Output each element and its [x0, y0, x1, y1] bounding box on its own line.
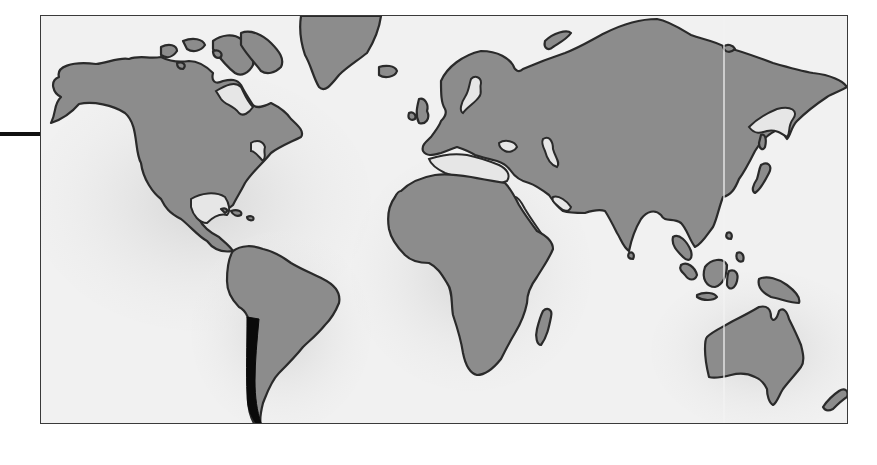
arctic-island — [183, 39, 205, 51]
philippines — [736, 252, 743, 261]
leader-line — [0, 132, 41, 136]
arctic-island — [177, 62, 185, 69]
world-map-frame — [40, 15, 848, 424]
taiwan — [726, 232, 732, 239]
sulawesi — [727, 270, 738, 288]
arctic-island — [161, 45, 177, 57]
great-britain — [417, 99, 429, 124]
wrangel-island — [723, 45, 735, 52]
iceland — [379, 66, 397, 77]
ireland — [408, 112, 415, 119]
lesser-sunda — [697, 293, 717, 300]
arctic-island — [213, 50, 222, 57]
hispaniola — [247, 216, 254, 220]
world-map — [41, 16, 848, 424]
sakhalin — [759, 135, 766, 149]
sri-lanka — [628, 252, 634, 259]
